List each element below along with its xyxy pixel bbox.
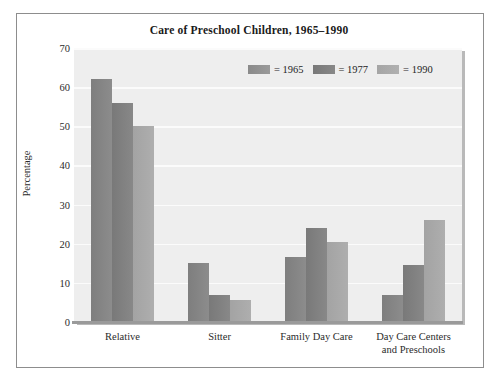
x-axis-label: Day Care Centersand Preschools (355, 330, 472, 356)
legend-swatch-1990 (377, 65, 399, 74)
plot-area (74, 48, 462, 322)
x-axis-label-line: and Preschools (355, 343, 472, 356)
legend-swatch-1977 (313, 65, 335, 74)
y-tick-label: 40 (44, 160, 70, 171)
bar-1977-day-care-centers-and-preschools (403, 265, 424, 322)
bar-1990-relative (133, 126, 154, 322)
legend-entry: = 1990 (377, 64, 433, 75)
y-tick-label: 60 (44, 82, 70, 93)
legend-label: = 1965 (274, 64, 304, 75)
y-axis-title: Percentage (21, 129, 32, 219)
legend: = 1965= 1977= 1990 (248, 62, 442, 76)
bar-1977-sitter (209, 295, 230, 322)
bar-group (91, 48, 154, 322)
y-tick-label: 70 (44, 43, 70, 54)
bar-group (285, 48, 348, 322)
bar-group (382, 48, 445, 322)
legend-entry: = 1977 (313, 64, 369, 75)
bar-1977-family-day-care (306, 228, 327, 322)
bar-1977-relative (112, 103, 133, 322)
y-axis-ticks: 010203040506070 (38, 48, 70, 322)
legend-label: = 1977 (339, 64, 369, 75)
bar-1965-sitter (188, 263, 209, 322)
y-tick-label: 20 (44, 238, 70, 249)
y-tick-label: 10 (44, 277, 70, 288)
bar-1965-day-care-centers-and-preschools (382, 295, 403, 322)
bar-1965-relative (91, 79, 112, 322)
x-axis-label-line: Day Care Centers (355, 330, 472, 343)
panel-shadow-right (462, 51, 465, 325)
x-axis-line (72, 321, 463, 324)
bar-group (188, 48, 251, 322)
legend-entry: = 1965 (248, 64, 304, 75)
bar-1990-day-care-centers-and-preschools (424, 220, 445, 322)
y-tick-label: 30 (44, 199, 70, 210)
y-tick-label: 0 (44, 317, 70, 328)
bar-1990-family-day-care (327, 242, 348, 322)
bar-1990-sitter (230, 300, 251, 322)
bar-1965-family-day-care (285, 257, 306, 322)
figure-container: Care of Preschool Children, 1965–1990 01… (0, 0, 498, 379)
y-tick-label: 50 (44, 121, 70, 132)
chart-title: Care of Preschool Children, 1965–1990 (0, 24, 498, 36)
legend-label: = 1990 (403, 64, 433, 75)
legend-swatch-1965 (248, 65, 270, 74)
